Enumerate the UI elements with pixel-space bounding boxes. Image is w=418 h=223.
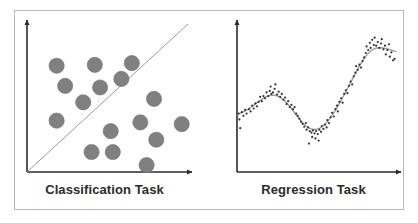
regression-data-point [371, 39, 373, 41]
regression-data-point [297, 115, 299, 117]
regression-data-point [346, 92, 348, 94]
regression-data-point [355, 65, 357, 67]
regression-data-point [302, 123, 304, 125]
regression-data-point [253, 107, 255, 109]
regression-data-point [310, 131, 312, 133]
regression-data-point [334, 108, 336, 110]
regression-data-point [266, 91, 268, 93]
class-data-point [146, 91, 161, 106]
regression-data-point [246, 113, 248, 115]
regression-data-point [279, 96, 281, 98]
regression-data-point [388, 43, 390, 45]
regression-data-point [342, 102, 344, 104]
regression-data-point [306, 129, 308, 131]
figure-container: Classification Task Regression Task [0, 0, 418, 223]
regression-data-point [312, 129, 314, 131]
regression-data-point [318, 129, 320, 131]
class-group-0 [49, 55, 139, 128]
class-data-point [139, 157, 154, 172]
regression-data-point [238, 118, 240, 120]
regression-data-point [360, 67, 362, 69]
regression-data-point [251, 104, 253, 106]
regression-data-point [289, 106, 291, 108]
class-data-point [114, 71, 129, 86]
regression-data-point [345, 89, 347, 91]
regression-data-point [330, 116, 332, 118]
regression-data-point [363, 56, 365, 58]
regression-points-group [238, 37, 396, 145]
class-data-point [76, 95, 91, 110]
panel-regression: Regression Task [209, 0, 418, 223]
regression-data-point [274, 88, 276, 90]
regression-data-point [337, 110, 339, 112]
regression-data-point [358, 64, 360, 66]
regression-data-point [259, 96, 261, 98]
regression-data-point [258, 101, 260, 103]
regression-data-point [338, 101, 340, 103]
class-group-1 [84, 91, 189, 172]
regression-data-point [394, 58, 396, 60]
class-data-point [149, 132, 164, 147]
regression-data-point [317, 133, 319, 135]
regression-data-point [377, 41, 379, 43]
regression-data-point [382, 48, 384, 50]
regression-data-point [369, 42, 371, 44]
regression-data-point [239, 127, 241, 129]
regression-data-point [384, 45, 386, 47]
regression-data-point [353, 75, 355, 77]
class-data-point [49, 113, 64, 128]
regression-data-point [276, 94, 278, 96]
regression-data-point [298, 118, 300, 120]
regression-data-point [365, 52, 367, 54]
classification-axis-label: Classification Task [0, 182, 209, 197]
regression-data-point [318, 140, 320, 142]
regression-data-point [282, 99, 284, 101]
regression-data-point [269, 90, 271, 92]
regression-data-point [374, 37, 376, 39]
regression-data-point [333, 115, 335, 117]
regression-data-point [264, 97, 266, 99]
regression-data-point [350, 80, 352, 82]
regression-data-point [308, 142, 310, 144]
regression-data-point [386, 49, 388, 51]
regression-data-point [294, 106, 296, 108]
regression-data-point [390, 51, 392, 53]
regression-data-point [315, 130, 317, 132]
regression-data-point [326, 126, 328, 128]
regression-axis-label: Regression Task [209, 182, 418, 197]
regression-data-point [290, 104, 292, 106]
class-data-point [124, 55, 139, 70]
regression-data-point [274, 83, 276, 85]
regression-data-point [321, 125, 323, 127]
regression-data-point [320, 131, 322, 133]
regression-data-point [261, 100, 263, 102]
regression-data-point [267, 95, 269, 97]
regression-data-point [307, 126, 309, 128]
regression-data-point [314, 132, 316, 134]
class-data-point [174, 116, 189, 131]
panel-classification: Classification Task [0, 0, 209, 223]
regression-data-point [324, 123, 326, 125]
class-data-point [84, 144, 99, 159]
regression-data-point [241, 111, 243, 113]
class-data-point [92, 80, 107, 95]
regression-data-point [366, 45, 368, 47]
regression-data-point [300, 121, 302, 123]
regression-data-point [314, 137, 316, 139]
regression-data-point [311, 136, 313, 138]
regression-data-point [303, 126, 305, 128]
regression-data-point [373, 44, 375, 46]
regression-data-point [354, 72, 356, 74]
regression-data-point [343, 93, 345, 95]
regression-data-point [278, 91, 280, 93]
class-data-point [58, 78, 73, 93]
regression-data-point [286, 103, 288, 105]
regression-data-point [367, 49, 369, 51]
regression-data-point [287, 100, 289, 102]
class-data-point [105, 144, 120, 159]
regression-data-point [370, 47, 372, 49]
regression-data-point [322, 128, 324, 130]
regression-data-point [270, 85, 272, 87]
class-data-point [49, 58, 64, 73]
class-data-point [103, 124, 118, 139]
